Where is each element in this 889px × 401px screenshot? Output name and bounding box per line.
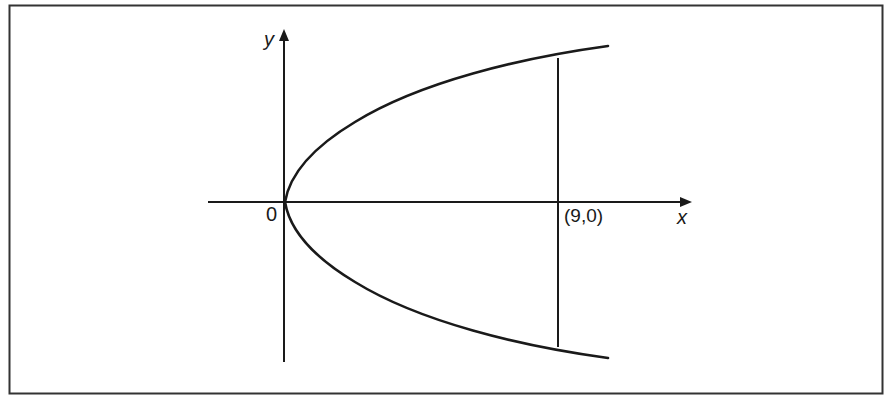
- parabola-figure: y x 0 (9,0): [0, 0, 889, 401]
- point-label: (9,0): [564, 205, 603, 226]
- y-axis-label: y: [262, 28, 275, 50]
- diagram-canvas: y x 0 (9,0): [0, 0, 889, 401]
- y-axis-arrow-icon: [279, 29, 289, 41]
- figure-frame: [10, 6, 883, 394]
- x-axis-label: x: [676, 206, 688, 228]
- origin-label: 0: [266, 203, 277, 225]
